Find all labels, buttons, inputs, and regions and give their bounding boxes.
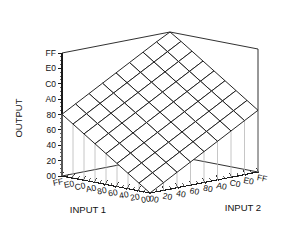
output-tick-label: 40 <box>47 140 57 150</box>
input2-axis-title: INPUT 2 <box>225 202 261 213</box>
input2-tick-label: E0 <box>243 175 255 187</box>
input1-tick-label: 20 <box>129 191 140 203</box>
input2-tick-label: 20 <box>162 191 173 203</box>
output-tick-label: FF <box>46 48 56 58</box>
output-axis-title: OUTPUT <box>13 98 24 137</box>
input1-tick-label: A0 <box>85 182 97 194</box>
output-tick-label: 20 <box>47 156 57 166</box>
output-tick-label: 80 <box>47 110 57 120</box>
input2-tick-label: A0 <box>216 180 228 192</box>
input2-tick-label: FF <box>256 172 268 184</box>
output-tick-label: A0 <box>46 94 57 104</box>
surface-plot-figure: 0020406080A0C0E0FFOUTPUTFFE0C0A080604020… <box>0 0 295 236</box>
input1-tick-label: FF <box>52 176 64 188</box>
output-tick-label: 60 <box>47 125 57 135</box>
input2-tick-label: C0 <box>229 177 242 189</box>
input2-tick-label: 00 <box>148 193 159 205</box>
input1-tick-label: 60 <box>107 187 118 199</box>
input2-tick-label: 40 <box>175 188 186 200</box>
output-tick-label: C0 <box>45 79 56 89</box>
input2-tick-label: 60 <box>189 185 200 197</box>
plot-canvas: 0020406080A0C0E0FFOUTPUTFFE0C0A080604020… <box>0 0 295 236</box>
input1-tick-label: 80 <box>96 185 107 197</box>
input2-tick-label: 80 <box>202 183 213 195</box>
output-tick-label: E0 <box>46 63 57 73</box>
input1-tick-label: 40 <box>118 189 129 201</box>
input1-axis-title: INPUT 1 <box>70 204 106 215</box>
